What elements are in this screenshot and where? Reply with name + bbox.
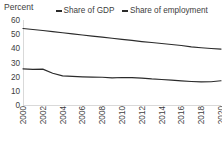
x-axis-tick-label: 2018 bbox=[197, 106, 206, 124]
x-axis-tick-label: 2000 bbox=[19, 106, 28, 124]
y-axis-tick-label: 10 bbox=[0, 86, 20, 95]
x-axis-tick-label: 2014 bbox=[158, 106, 167, 124]
y-axis-tick-label: 40 bbox=[0, 44, 20, 53]
y-axis-title: Percent bbox=[4, 2, 33, 12]
x-axis-tick-label: 2008 bbox=[98, 106, 107, 124]
legend-label: Share of employment bbox=[130, 6, 208, 16]
series-line-share-of-gdp bbox=[23, 29, 221, 50]
x-axis-tick-label: 2002 bbox=[39, 106, 48, 124]
y-axis-tick-label: 50 bbox=[0, 30, 20, 39]
series-line-share-of-employment bbox=[23, 69, 221, 82]
x-axis-tick-label: 2020 bbox=[217, 106, 222, 124]
x-axis-tick-label: 2006 bbox=[78, 106, 87, 124]
x-axis-tick-label: 2004 bbox=[59, 106, 68, 124]
chart-legend: Share of GDP Share of employment bbox=[56, 6, 208, 16]
legend-item-share-of-employment[interactable]: Share of employment bbox=[122, 6, 207, 16]
legend-label: Share of GDP bbox=[64, 6, 115, 16]
plot-svg bbox=[23, 20, 221, 105]
x-axis-tick-labels: 2000200220042006200820102012201420162018… bbox=[23, 106, 221, 142]
y-axis-tick-label: 20 bbox=[0, 72, 20, 81]
line-swatch-icon bbox=[56, 10, 62, 12]
y-axis-tick-label: 0 bbox=[0, 101, 20, 110]
line-swatch-icon bbox=[122, 10, 128, 12]
x-axis-tick-label: 2016 bbox=[177, 106, 186, 124]
legend-item-share-of-gdp[interactable]: Share of GDP bbox=[56, 6, 114, 16]
y-axis-tick-label: 30 bbox=[0, 58, 20, 67]
plot-area bbox=[23, 20, 221, 105]
y-axis-tick-labels: 6050403020100 bbox=[0, 15, 20, 110]
y-axis-tick-label: 60 bbox=[0, 16, 20, 25]
x-axis-tick-label: 2010 bbox=[118, 106, 127, 124]
line-chart: Percent Share of GDP Share of employment… bbox=[0, 0, 222, 143]
x-axis-tick-label: 2012 bbox=[138, 106, 147, 124]
